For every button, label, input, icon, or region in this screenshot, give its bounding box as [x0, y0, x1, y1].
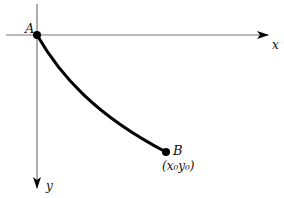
y-axis-label: y: [45, 179, 53, 193]
brachistochrone-diagram: A B (x₀y₀) x y: [0, 0, 284, 198]
point-a-label: A: [24, 21, 34, 36]
point-b: [162, 148, 170, 156]
point-b-coords-label: (x₀y₀): [162, 159, 195, 173]
x-axis-label: x: [272, 38, 279, 52]
point-b-label: B: [172, 143, 183, 158]
curve-a-to-b: [37, 35, 166, 152]
